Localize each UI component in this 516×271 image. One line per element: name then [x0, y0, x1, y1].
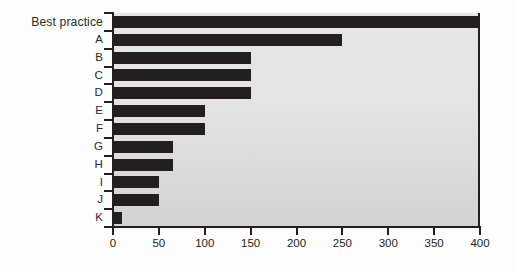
- category-label-d: D: [0, 84, 108, 102]
- x-axis-tick: [341, 228, 343, 235]
- bar-best-practice: [113, 16, 478, 28]
- x-axis-tick: [433, 228, 435, 235]
- category-label-j: J: [0, 191, 108, 209]
- bar-row: [113, 31, 478, 49]
- y-axis-tick: [104, 48, 113, 50]
- bar-b: [113, 52, 251, 64]
- bar-row: [113, 49, 478, 67]
- bar-series: [113, 13, 478, 227]
- y-axis-tick: [104, 119, 113, 121]
- category-label-b: B: [0, 49, 108, 67]
- bar-row: [113, 84, 478, 102]
- bar-row: [113, 173, 478, 191]
- bar-row: [113, 191, 478, 209]
- y-axis-tick: [104, 173, 113, 175]
- bar-e: [113, 105, 205, 117]
- x-axis-tick-label: 100: [195, 238, 214, 250]
- category-label-h: H: [0, 156, 108, 174]
- bar-g: [113, 141, 173, 153]
- bar-j: [113, 194, 159, 206]
- bar-row: [113, 156, 478, 174]
- bar-i: [113, 176, 159, 188]
- bar-f: [113, 123, 205, 135]
- y-axis-tick: [104, 208, 113, 210]
- bar-row: [113, 138, 478, 156]
- y-axis-tick: [104, 137, 113, 139]
- bar-a: [113, 34, 342, 46]
- x-axis-tick-label: 150: [241, 238, 260, 250]
- x-axis-tick: [387, 228, 389, 235]
- category-label-e: E: [0, 102, 108, 120]
- plot-area: [113, 13, 480, 227]
- category-label-best-practice: Best practice: [0, 13, 108, 31]
- y-axis-tick: [104, 83, 113, 85]
- bar-k: [113, 212, 122, 224]
- category-label-f: F: [0, 120, 108, 138]
- y-axis-tick: [104, 190, 113, 192]
- y-axis-tick: [104, 30, 113, 32]
- x-axis-tick: [479, 228, 481, 235]
- x-axis-tick-label: 0: [110, 238, 116, 250]
- x-axis-tick-label: 200: [287, 238, 306, 250]
- bar-chart: Best practice A B C D E F G H I J K 0501…: [0, 0, 516, 271]
- category-label-i: I: [0, 173, 108, 191]
- bar-row: [113, 66, 478, 84]
- x-axis-tick: [204, 228, 206, 235]
- y-axis-tick: [104, 12, 113, 14]
- bar-d: [113, 87, 251, 99]
- x-axis-tick-label: 350: [425, 238, 444, 250]
- bar-c: [113, 69, 251, 81]
- x-axis-tick-label: 250: [333, 238, 352, 250]
- category-label-k: K: [0, 209, 108, 227]
- x-axis-tick-label: 400: [470, 238, 489, 250]
- x-axis-tick: [296, 228, 298, 235]
- x-axis-tick-label: 300: [379, 238, 398, 250]
- x-axis-tick: [158, 228, 160, 235]
- category-label-a: A: [0, 31, 108, 49]
- x-axis-tick: [112, 228, 114, 235]
- bar-h: [113, 159, 173, 171]
- bar-row: [113, 13, 478, 31]
- category-label-g: G: [0, 138, 108, 156]
- bar-row: [113, 102, 478, 120]
- x-axis-tick-label: 50: [152, 238, 165, 250]
- x-axis-tick: [250, 228, 252, 235]
- bar-row: [113, 209, 478, 227]
- y-axis-tick: [104, 155, 113, 157]
- bar-row: [113, 120, 478, 138]
- y-axis-tick: [104, 66, 113, 68]
- y-axis-tick: [104, 101, 113, 103]
- category-axis-labels: Best practice A B C D E F G H I J K: [0, 13, 108, 227]
- category-label-c: C: [0, 66, 108, 84]
